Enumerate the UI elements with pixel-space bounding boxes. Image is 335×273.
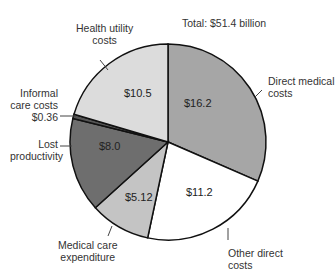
value-other-direct: $11.2 [186,186,213,198]
leader-line [254,90,262,98]
label-line: Medical care [58,239,118,251]
label-line: care costs [8,99,58,111]
label-line: Other direct [228,247,283,259]
label-informal-care: Informal care costs $0.36 [8,87,58,123]
chart-title: Total: $51.4 billion [182,17,266,29]
value-lost-productivity: $8.0 [99,140,120,152]
label-line: Lost [10,138,58,150]
label-line: $0.36 [8,111,58,123]
label-line: costs [228,259,283,271]
label-lost-productivity: Lost productivity [10,138,58,162]
label-line: Direct medical [268,75,335,87]
value-direct-medical: $16.2 [184,97,212,109]
pie-graphic [0,0,335,273]
label-line: costs [268,87,335,99]
pie-chart: Total: $51.4 billion Health utility cost… [0,0,335,273]
value-health-utility: $10.5 [124,87,152,99]
label-health-utility: Health utility costs [76,22,133,46]
label-line: productivity [10,150,58,162]
label-line: Health utility [76,22,133,34]
label-direct-medical: Direct medical costs [268,75,335,99]
label-line: Informal [8,87,58,99]
label-line: expenditure [58,251,118,263]
label-other-direct: Other direct costs [228,247,283,271]
value-medical-care: $5.12 [125,191,153,203]
leader-line [108,226,112,236]
label-line: costs [76,34,133,46]
label-medical-care: Medical care expenditure [58,239,118,263]
